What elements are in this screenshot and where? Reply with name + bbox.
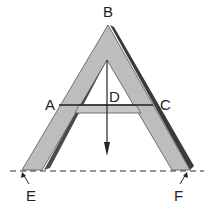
plumb-bob [104,142,110,156]
label-a: A [45,97,55,112]
right-leg-shadow [110,25,194,170]
crossbar [75,105,141,113]
label-b: B [103,4,113,19]
a-frame-level-diagram: B A C D E F [0,0,214,213]
label-f: F [174,188,183,203]
label-c: C [160,97,171,112]
label-e: E [26,188,36,203]
diagram-svg [0,0,214,213]
label-d: D [109,89,120,104]
